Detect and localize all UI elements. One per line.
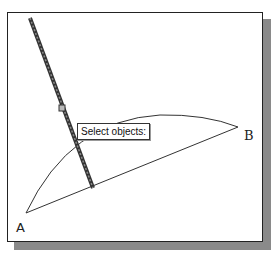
point-label-b: B [244, 128, 254, 143]
grip-icon[interactable] [59, 105, 65, 111]
select-objects-tooltip: Select objects: [77, 123, 150, 140]
point-label-a: A [16, 220, 25, 235]
